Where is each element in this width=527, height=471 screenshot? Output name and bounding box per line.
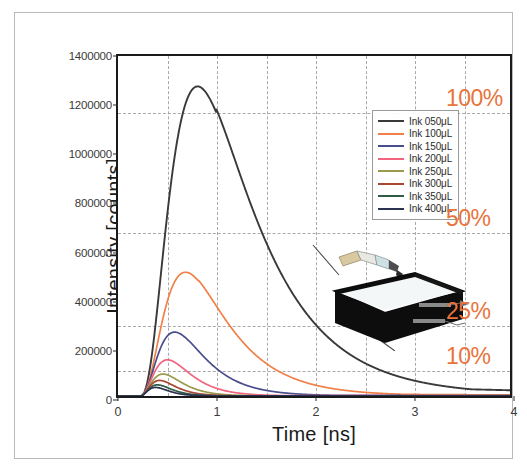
legend-item-label: Ink 300μL	[409, 178, 452, 189]
legend-item[interactable]: Ink 050μL	[378, 115, 452, 128]
reference-percent-label: 10%	[446, 343, 491, 370]
y-axis-tick-label: 1000000	[69, 148, 118, 160]
x-axis-tick-mark	[217, 396, 218, 401]
legend-item-label: Ink 250μL	[409, 166, 452, 177]
legend-item-label: Ink 200μL	[409, 153, 452, 164]
legend-item[interactable]: Ink 200μL	[378, 153, 452, 166]
y-axis-tick-label: 800000	[75, 197, 118, 209]
legend-color-swatch	[378, 120, 404, 122]
y-axis-tick-label: 1200000	[69, 99, 118, 111]
legend-item[interactable]: Ink 350μL	[378, 190, 452, 203]
legend-item-label: Ink 050μL	[409, 116, 452, 127]
y-axis-tick-label: 1400000	[69, 50, 118, 62]
legend[interactable]: Ink 050μLInk 100μLInk 150μLInk 200μLInk …	[372, 110, 459, 220]
x-axis-tick-mark	[514, 396, 515, 401]
x-axis-tick-mark	[316, 396, 317, 401]
y-axis-tick-mark	[113, 56, 118, 57]
y-axis-tick-mark	[113, 154, 118, 155]
figure-frame: Intensity [counts] Time [ns] 02000004000…	[14, 12, 513, 459]
y-axis-tick-mark	[113, 252, 118, 253]
legend-color-swatch	[378, 145, 404, 147]
x-axis-title: Time [ns]	[116, 423, 512, 446]
legend-color-swatch	[378, 133, 404, 135]
legend-item[interactable]: Ink 250μL	[378, 165, 452, 178]
figure-container: Intensity [counts] Time [ns] 02000004000…	[0, 0, 527, 471]
reference-percent-label: 100%	[446, 85, 503, 112]
legend-item[interactable]: Ink 400μL	[378, 203, 452, 216]
y-axis-tick-label: 600000	[75, 247, 118, 259]
reference-percent-label: 50%	[446, 205, 491, 232]
legend-item-label: Ink 150μL	[409, 141, 452, 152]
legend-color-swatch	[378, 195, 404, 197]
reference-percent-label: 25%	[446, 298, 491, 325]
legend-color-swatch	[378, 158, 404, 160]
legend-item[interactable]: Ink 300μL	[378, 178, 452, 191]
y-axis-tick-mark	[113, 105, 118, 106]
legend-color-swatch	[378, 183, 404, 185]
legend-color-swatch	[378, 170, 404, 172]
legend-item[interactable]: Ink 150μL	[378, 140, 452, 153]
legend-item-label: Ink 100μL	[409, 128, 452, 139]
x-axis-tick-mark	[118, 396, 119, 401]
y-axis-tick-mark	[113, 301, 118, 302]
x-axis-tick-mark	[415, 396, 416, 401]
y-axis-tick-mark	[113, 203, 118, 204]
y-axis-tick-label: 200000	[75, 345, 118, 357]
legend-item-label: Ink 350μL	[409, 191, 452, 202]
legend-color-swatch	[378, 208, 404, 210]
y-axis-tick-mark	[113, 350, 118, 351]
data-series-line	[118, 272, 510, 396]
y-axis-tick-label: 400000	[75, 296, 118, 308]
legend-item[interactable]: Ink 100μL	[378, 128, 452, 141]
